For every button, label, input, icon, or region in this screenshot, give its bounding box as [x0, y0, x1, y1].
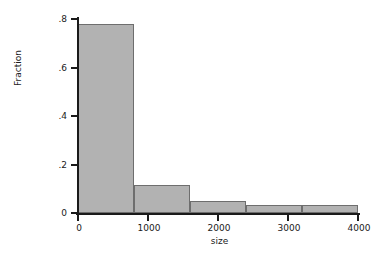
y-axis-tick-label: .4 [27, 112, 67, 121]
histogram-bar [134, 185, 190, 213]
y-axis-tick-label: 0 [27, 209, 67, 218]
x-axis-tick [147, 214, 149, 221]
histogram-bar [302, 205, 358, 213]
x-axis-tick-label: 4000 [329, 224, 381, 233]
x-axis-tick-label: 1000 [119, 224, 179, 233]
x-axis-tick-label: 0 [49, 224, 109, 233]
x-axis-tick-label: 2000 [189, 224, 249, 233]
y-axis-tick-label: .8 [27, 15, 67, 24]
histogram-figure: 0.2.4.6.8 01000200030004000 Fraction siz… [0, 0, 381, 254]
histogram-bar [78, 24, 134, 213]
histogram-bar [190, 201, 246, 213]
histogram-bar [246, 205, 302, 213]
y-axis-tick-label: .6 [27, 64, 67, 73]
y-axis-tick-label: .2 [27, 161, 67, 170]
x-axis-tick-label: 3000 [259, 224, 319, 233]
x-axis-tick [217, 214, 219, 221]
x-axis-tick [357, 214, 359, 221]
x-axis-tick [287, 214, 289, 221]
y-axis-tick [71, 67, 78, 69]
y-axis-title: Fraction [14, 50, 23, 86]
x-axis-tick [77, 214, 79, 221]
y-axis-tick [71, 164, 78, 166]
x-axis-title: size [0, 237, 381, 246]
y-axis-tick [71, 115, 78, 117]
y-axis-tick [71, 18, 78, 20]
plot-area [78, 19, 358, 213]
